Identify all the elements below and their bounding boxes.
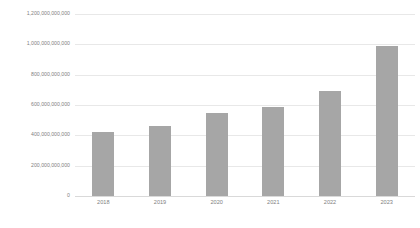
x-axis-tick-labels: 201820192020202120222023	[75, 200, 415, 214]
plot-area	[75, 14, 415, 196]
gridline	[75, 196, 415, 197]
bar[interactable]	[206, 113, 228, 196]
x-axis-tick-label: 2020	[197, 200, 237, 206]
y-axis-tick-label: 200,000,000,000	[0, 163, 70, 168]
y-axis-tick-label: 1,200,000,000,000	[0, 11, 70, 16]
x-axis-tick-label: 2022	[310, 200, 350, 206]
gridline	[75, 135, 415, 136]
gridline	[75, 44, 415, 45]
y-axis-tick-label: 600,000,000,000	[0, 102, 70, 107]
chart-title	[0, 0, 420, 5]
y-axis-tick-label: 400,000,000,000	[0, 133, 70, 138]
bar[interactable]	[92, 132, 114, 196]
bar[interactable]	[149, 126, 171, 196]
gridline	[75, 105, 415, 106]
x-axis-tick-label: 2021	[253, 200, 293, 206]
bar[interactable]	[376, 46, 398, 196]
bar-chart: 0200,000,000,000400,000,000,000600,000,0…	[0, 0, 420, 228]
x-axis-tick-label: 2018	[83, 200, 123, 206]
bar[interactable]	[319, 91, 341, 196]
bar[interactable]	[262, 107, 284, 196]
y-axis-tick-label: 0	[0, 193, 70, 198]
gridline	[75, 75, 415, 76]
gridline	[75, 166, 415, 167]
x-axis-tick-label: 2023	[367, 200, 407, 206]
y-axis-tick-label: 800,000,000,000	[0, 72, 70, 77]
y-axis-tick-label: 1,000,000,000,000	[0, 42, 70, 47]
gridline	[75, 14, 415, 15]
x-axis-tick-label: 2019	[140, 200, 180, 206]
